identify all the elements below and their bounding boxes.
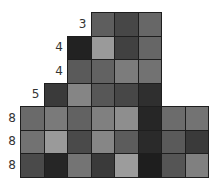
grid-cell[interactable] [185, 106, 210, 131]
grid-cell[interactable] [44, 83, 69, 108]
grid-cell[interactable] [91, 130, 116, 155]
grid-cell[interactable] [138, 106, 163, 131]
grid-cell[interactable] [114, 130, 139, 155]
grid-cell[interactable] [138, 153, 163, 178]
grid-cell[interactable] [161, 130, 186, 155]
grid-cell[interactable] [91, 12, 116, 37]
grid-cell[interactable] [67, 83, 92, 108]
grid-cell[interactable] [20, 106, 45, 131]
grid-cell[interactable] [91, 59, 116, 84]
grid-cell[interactable] [91, 106, 116, 131]
grid-cell[interactable] [114, 83, 139, 108]
grid-cell[interactable] [161, 106, 186, 131]
grid-cell[interactable] [67, 106, 92, 131]
row-count-label: 8 [2, 111, 16, 125]
grid-cell[interactable] [67, 59, 92, 84]
grid-cell[interactable] [114, 59, 139, 84]
grid-cell[interactable] [91, 83, 116, 108]
grid-cell[interactable] [114, 12, 139, 37]
grid-cell[interactable] [67, 130, 92, 155]
grid-cell[interactable] [67, 153, 92, 178]
grid-cell[interactable] [67, 36, 92, 61]
grid-cell[interactable] [20, 153, 45, 178]
row-count-label: 8 [2, 158, 16, 172]
grid-cell[interactable] [91, 36, 116, 61]
grid-cell[interactable] [138, 130, 163, 155]
row-count-label: 4 [49, 64, 63, 78]
grid-cell[interactable] [185, 130, 210, 155]
grid-cell[interactable] [114, 36, 139, 61]
grid-cell[interactable] [91, 153, 116, 178]
grid-cell[interactable] [138, 59, 163, 84]
puzzle-board: 3445888 [0, 0, 218, 189]
grid-cell[interactable] [44, 106, 69, 131]
row-count-label: 5 [26, 87, 40, 101]
grid-cell[interactable] [185, 153, 210, 178]
grid-cell[interactable] [20, 130, 45, 155]
row-count-label: 3 [73, 17, 87, 31]
grid-cell[interactable] [138, 83, 163, 108]
grid-cell[interactable] [161, 153, 186, 178]
grid-cell[interactable] [114, 153, 139, 178]
grid-cell[interactable] [44, 153, 69, 178]
grid-cell[interactable] [138, 36, 163, 61]
grid-cell[interactable] [114, 106, 139, 131]
grid-cell[interactable] [138, 12, 163, 37]
row-count-label: 8 [2, 134, 16, 148]
row-count-label: 4 [49, 40, 63, 54]
grid-cell[interactable] [44, 130, 69, 155]
